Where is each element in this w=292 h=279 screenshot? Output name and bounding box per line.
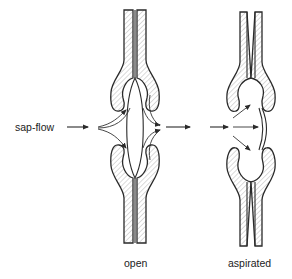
aspirated-membrane-inner	[259, 108, 263, 150]
open-flow-line-upper-in	[98, 110, 126, 127]
sap-flow-label: sap-flow	[15, 121, 55, 133]
open-membrane	[127, 78, 144, 178]
open-label: open	[124, 257, 148, 269]
open-pit	[98, 10, 160, 243]
open-flow-line-lower-in	[98, 129, 126, 148]
pit-diagram: sap-flow open aspirated	[0, 0, 292, 279]
aspirated-label: aspirated	[228, 257, 271, 269]
aspirated-pit	[227, 12, 275, 246]
